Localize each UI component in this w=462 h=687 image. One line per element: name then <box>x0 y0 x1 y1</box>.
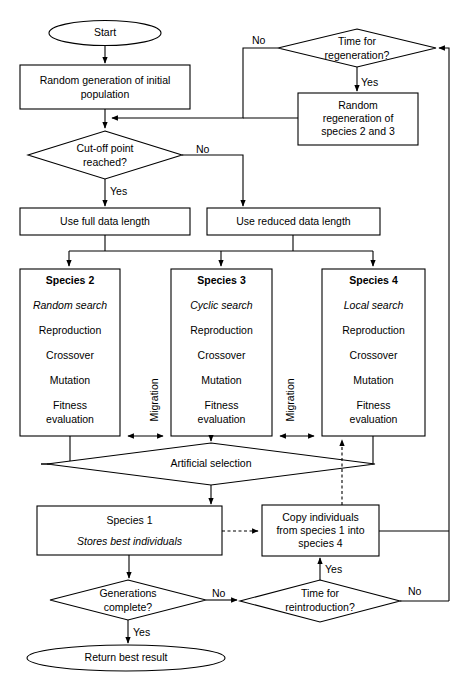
node-start: Start <box>49 21 161 46</box>
node-random-regeneration-line3: species 2 and 3 <box>321 125 395 137</box>
species-4-search: Local search <box>344 299 404 311</box>
edge-species2-down <box>41 436 70 464</box>
node-copy-individuals-line3: species 4 <box>298 537 343 549</box>
node-random-regeneration: Random regeneration of species 2 and 3 <box>298 93 418 145</box>
species-2-step-2: Mutation <box>50 374 90 386</box>
node-random-generation-line2: population <box>81 88 130 100</box>
edge-label-cutoff-no: No <box>196 143 210 155</box>
species-2-step-3-line2: evaluation <box>46 413 94 425</box>
node-start-label: Start <box>94 26 116 38</box>
edge-cutoff-no <box>182 155 243 206</box>
node-cutoff-point: Cut-off point reached? <box>28 131 182 179</box>
outer-return-rail <box>437 48 449 601</box>
edge-datalength-to-species-bus <box>69 235 373 266</box>
species-4-step-3-line1: Fitness <box>357 399 391 411</box>
node-copy-individuals-line1: Copy individuals <box>282 511 358 523</box>
node-use-full-label: Use full data length <box>60 215 150 227</box>
edge-label-regeneration-no: No <box>252 34 266 46</box>
node-cutoff-line1: Cut-off point <box>76 142 133 154</box>
node-generations-line2: complete? <box>104 601 153 613</box>
species-4-title: Species 4 <box>349 274 398 286</box>
species-4-step-1: Crossover <box>350 349 398 361</box>
migration-link-3-4: Migration <box>280 378 314 436</box>
species-2-title: Species 2 <box>46 274 95 286</box>
edge-label-generations-yes: Yes <box>133 626 150 638</box>
node-time-for-regeneration: Time for regeneration? <box>278 29 436 67</box>
species-4-step-3-line2: evaluation <box>350 413 398 425</box>
node-time-for-reintroduction: Time for reintroduction? <box>240 580 400 622</box>
species-2-step-0: Reproduction <box>39 324 102 336</box>
node-copy-individuals: Copy individuals from species 1 into spe… <box>262 505 379 556</box>
node-return-best-result: Return best result <box>27 645 225 671</box>
species-1-title: Species 1 <box>106 514 152 526</box>
species-3-step-3-line2: evaluation <box>198 413 246 425</box>
species-3-title: Species 3 <box>197 274 246 286</box>
node-artificial-selection: Artificial selection <box>47 443 375 485</box>
node-cutoff-line2: reached? <box>83 156 127 168</box>
node-copy-individuals-line2: from species 1 into <box>276 524 364 536</box>
migration-label-2: Migration <box>284 378 296 421</box>
species-2-search: Random search <box>33 299 107 311</box>
migration-link-2-3: Migration <box>128 378 163 436</box>
node-use-reduced-label: Use reduced data length <box>236 215 351 227</box>
species-3-step-2: Mutation <box>201 374 241 386</box>
node-artificial-selection-label: Artificial selection <box>170 457 251 469</box>
node-reintroduction-line1: Time for <box>301 587 340 599</box>
node-return-best-result-label: Return best result <box>85 651 168 663</box>
node-reintroduction-line2: reintroduction? <box>285 601 355 613</box>
node-random-regeneration-line1: Random <box>338 99 378 111</box>
node-species-4: Species 4 Local search Reproduction Cros… <box>322 269 425 436</box>
node-time-regeneration-line2: regeneration? <box>325 49 390 61</box>
node-random-generation-line1: Random generation of initial <box>40 74 171 86</box>
node-time-regeneration-line1: Time for <box>338 35 377 47</box>
edge-label-reintroduction-no: No <box>408 585 422 597</box>
edge-label-cutoff-yes: Yes <box>110 185 127 197</box>
flowchart-canvas: Start Random generation of initial popul… <box>0 0 462 687</box>
species-3-step-1: Crossover <box>198 349 246 361</box>
node-species-2: Species 2 Random search Reproduction Cro… <box>20 269 120 436</box>
node-generations-complete: Generations complete? <box>50 580 206 620</box>
node-random-regeneration-line2: regeneration of <box>323 112 394 124</box>
flowchart-diagram: Start Random generation of initial popul… <box>0 0 462 687</box>
edge-label-regeneration-yes: Yes <box>361 76 378 88</box>
species-1-subtitle: Stores best individuals <box>77 535 183 547</box>
migration-label-1: Migration <box>148 378 160 421</box>
node-species-1: Species 1 Stores best individuals <box>37 506 222 555</box>
species-3-search: Cyclic search <box>190 299 253 311</box>
node-use-full-data-length: Use full data length <box>20 208 190 235</box>
species-3-step-3-line1: Fitness <box>205 399 239 411</box>
species-4-step-2: Mutation <box>353 374 393 386</box>
node-generations-line1: Generations <box>99 587 156 599</box>
node-random-generation: Random generation of initial population <box>20 65 190 109</box>
node-use-reduced-data-length: Use reduced data length <box>207 208 380 235</box>
species-2-step-3-line1: Fitness <box>53 399 87 411</box>
species-3-step-0: Reproduction <box>190 324 253 336</box>
node-species-3: Species 3 Cyclic search Reproduction Cro… <box>171 269 272 436</box>
species-4-step-0: Reproduction <box>342 324 405 336</box>
species-2-step-1: Crossover <box>46 349 94 361</box>
edge-label-generations-no: No <box>212 587 226 599</box>
edge-label-reintroduction-yes: Yes <box>325 563 342 575</box>
